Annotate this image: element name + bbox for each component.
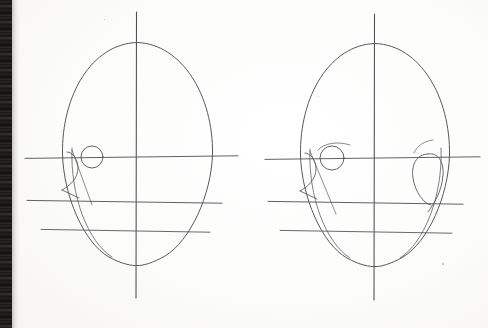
- guideline-mouth-right: [280, 230, 452, 233]
- drawing-artwork: [0, 0, 488, 328]
- nose-wedge-base-left: [62, 190, 79, 198]
- nose-wedge-diagonal-right: [310, 151, 336, 214]
- guideline-mouth-left: [41, 229, 210, 232]
- head-left-figure: [25, 12, 238, 298]
- centerline-vertical-right: [374, 14, 375, 300]
- ear-top-flick-right: [414, 140, 433, 153]
- jaw-chin-curve-left: [63, 154, 213, 266]
- eye-circle-right: [320, 146, 344, 170]
- nose-wedge-diagonal-left: [72, 150, 92, 205]
- nose-wedge-base-right: [300, 191, 317, 199]
- scanned-drawing-page: [0, 0, 488, 328]
- guideline-nose-left: [27, 200, 222, 203]
- paper-speck: [104, 19, 105, 20]
- cranium-arc-left: [62, 43, 212, 155]
- centerline-vertical-left: [136, 12, 137, 298]
- cranium-arc-right: [300, 44, 449, 156]
- paper-speck: [442, 263, 444, 265]
- ear-outer-curve-right: [413, 154, 431, 205]
- guideline-eye-left: [25, 156, 238, 159]
- jaw-chin-curve-right: [301, 155, 450, 267]
- paper-speck: [318, 96, 319, 97]
- head-right-figure: [265, 14, 480, 300]
- eye-circle-left: [81, 146, 103, 168]
- guideline-eye-right: [265, 157, 480, 160]
